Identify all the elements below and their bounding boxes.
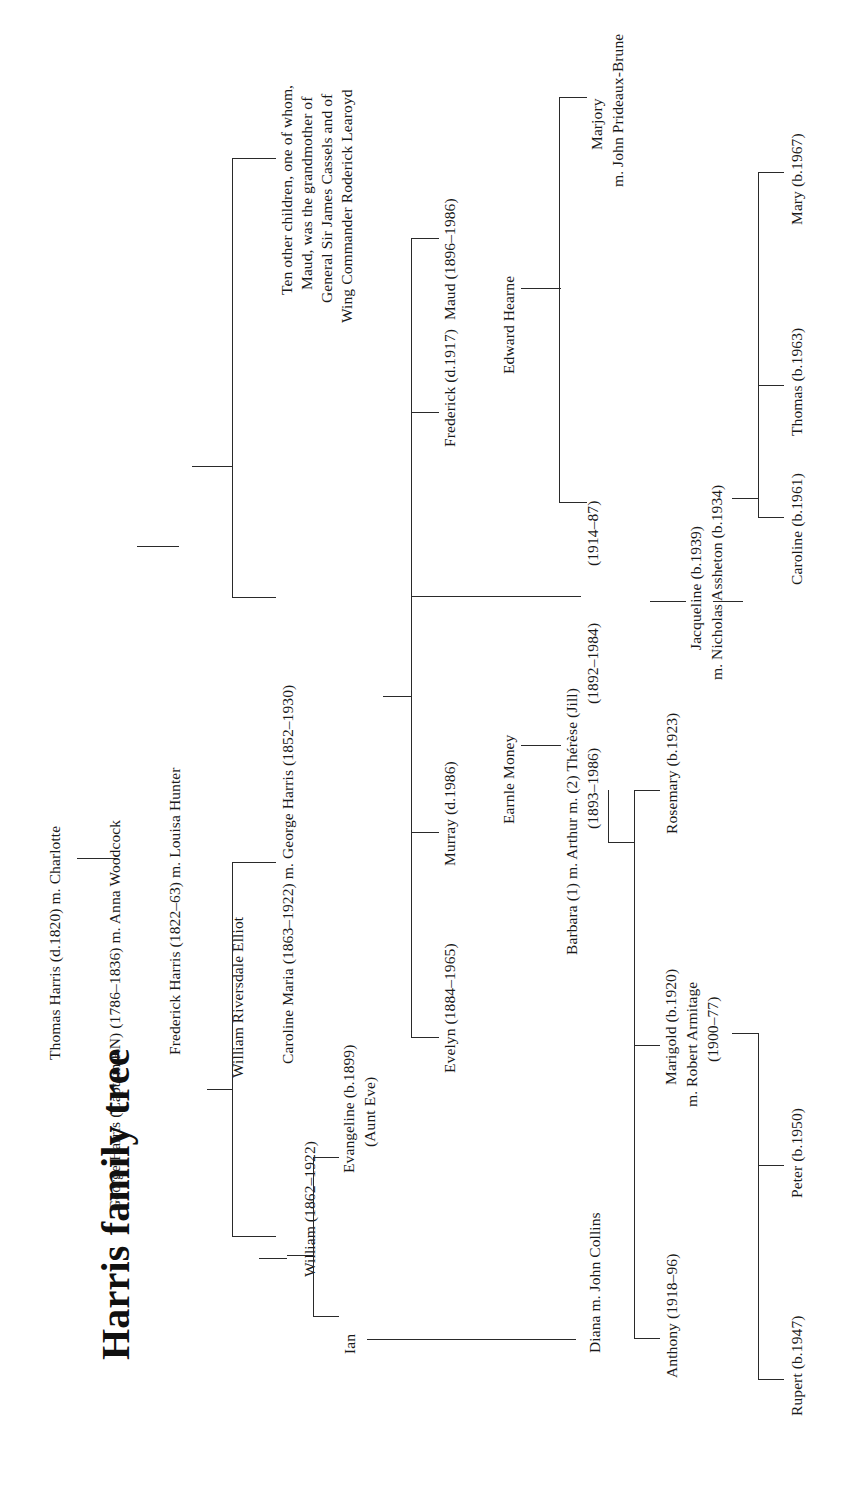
person-evelyn: Evelyn (1884–1965) xyxy=(440,943,460,1073)
children-bracket-william-arm-ian xyxy=(313,1316,339,1317)
person-caroline-1961: Caroline (b.1961) xyxy=(787,473,807,585)
children-bracket-arm-maud xyxy=(411,238,439,239)
children-bracket-arthur-arm-rosemary xyxy=(634,790,660,791)
children-bracket-assheton-arm-thomas xyxy=(758,385,784,386)
marriage-tick-nicholas-assheton xyxy=(713,601,743,602)
children-bracket-hearne-arm-marjory xyxy=(559,97,587,98)
descent-tick-jacqueline xyxy=(650,601,686,602)
person-marigold-line1: Marigold (b.1920) xyxy=(662,969,681,1085)
person-thomas-harris: Thomas Harris (d.1820) m. Charlotte xyxy=(45,826,65,1060)
children-bracket-armitage-arm-peter xyxy=(758,1165,784,1166)
marriage-tick-earnle-money xyxy=(521,745,561,746)
person-mary-1967: Mary (b.1967) xyxy=(787,133,807,225)
marriage-line-ian-diana xyxy=(367,1339,576,1340)
connector-into-arthur-children-riser xyxy=(608,790,609,843)
person-barbara-arthur-therese: Barbara (1) m. Arthur m. (2) Thérèse (Ji… xyxy=(562,688,582,955)
children-bracket-arthur-arm-marigold xyxy=(634,1045,660,1046)
note-ten-other-children-line2: Maud, was the grandmother of xyxy=(298,97,317,291)
dates-therese: (1914–87) xyxy=(583,501,603,566)
person-frederick-harris-1822: Frederick Harris (1822–63) m. Louisa Hun… xyxy=(165,767,185,1055)
person-peter: Peter (b.1950) xyxy=(787,1108,807,1198)
person-caroline-maria: Caroline Maria (1863–1922) m. George Har… xyxy=(278,685,298,1064)
connector-into-gen4-bracket xyxy=(192,466,232,467)
dates-arthur: (1892–1984) xyxy=(583,623,603,704)
sibling-bracket-william-caroline-arm-upper xyxy=(232,862,276,863)
person-rosemary: Rosemary (b.1923) xyxy=(662,713,682,834)
person-marigold-line3: (1900–77) xyxy=(704,997,723,1062)
connector-into-arthur-children xyxy=(608,842,634,843)
person-anthony: Anthony (1918–96) xyxy=(662,1254,682,1378)
children-bracket-arthur-arm-anthony xyxy=(634,1338,660,1339)
sibling-bracket-gen4-arm-upper xyxy=(232,158,276,159)
person-william-1862: William (1862–1922) xyxy=(300,1141,320,1277)
person-edward-hearne: Edward Hearne xyxy=(499,276,519,374)
person-marjory-line1: Marjory xyxy=(588,99,607,151)
person-marigold-line2: m. Robert Armitage xyxy=(683,982,702,1107)
children-bracket-assheton-arm-caroline xyxy=(758,517,784,518)
children-bracket-arm-murray xyxy=(411,832,439,833)
sibling-bracket-william-caroline-arm-lower xyxy=(232,1236,276,1237)
marriage-tick-william-riversdale-elliot xyxy=(207,1089,233,1090)
sibling-bracket-william-caroline-spine xyxy=(232,862,233,1237)
children-bracket-arthur-spine xyxy=(634,790,635,1339)
connector-into-armitage-children xyxy=(732,1033,758,1034)
marriage-tick-edward-hearne xyxy=(521,288,561,289)
person-evangeline-line1: Evangeline (b.1899) xyxy=(340,1045,359,1173)
children-bracket-armitage-arm-rupert xyxy=(758,1379,784,1380)
connector-into-armitage-children-riser xyxy=(758,1033,759,1166)
children-bracket-arm-frederick xyxy=(411,412,439,413)
descent-line-to-barbara-arthur xyxy=(411,596,581,597)
children-bracket-hearne-arm-therese xyxy=(559,502,587,503)
children-bracket-armitage-spine xyxy=(758,1165,759,1380)
person-george-harris-captain: George Harris (Captain RN) (1786–1836) m… xyxy=(105,820,125,1211)
note-ten-other-children-line3: General Sir James Cassels and of xyxy=(318,94,337,303)
person-william-riversdale-elliot: William Riversdale Elliot xyxy=(228,917,248,1078)
person-diana-collins: Diana m. John Collins xyxy=(585,1212,605,1353)
person-murray: Murray (d.1986) xyxy=(440,761,460,866)
marriage-tick-william-1862 xyxy=(259,1258,287,1259)
connector-george-to-frederick xyxy=(137,546,179,547)
children-bracket-assheton-arm-mary xyxy=(758,172,784,173)
sibling-bracket-gen4-spine xyxy=(232,158,233,598)
family-tree-diagram: Harris family tree Thomas Harris (d.1820… xyxy=(0,0,854,1497)
person-ian: Ian xyxy=(340,1334,360,1354)
person-marjory-line2: m. John Prideaux-Brune xyxy=(609,34,628,187)
children-bracket-william-arm-evangeline xyxy=(313,1157,339,1158)
note-ten-other-children-line4: Wing Commander Roderick Learoyd xyxy=(338,89,357,323)
person-jacqueline-line2: m. Nicholas Assheton (b.1934) xyxy=(708,485,727,680)
children-bracket-assheton-spine xyxy=(758,172,759,518)
person-thomas-1963: Thomas (b.1963) xyxy=(787,328,807,436)
person-frederick-d1917: Frederick (d.1917) xyxy=(440,329,460,447)
children-bracket-william-spine xyxy=(313,1157,314,1317)
dates-barbara: (1893–1986) xyxy=(583,748,603,829)
connector-into-assheton-children xyxy=(732,498,758,499)
person-earnle-money: Earnle Money xyxy=(499,735,519,824)
connector-into-caroline-children xyxy=(383,696,411,697)
children-bracket-caroline-spine xyxy=(411,238,412,1038)
sibling-bracket-gen4-arm-lower xyxy=(232,597,276,598)
person-jacqueline-line1: Jacqueline (b.1939) xyxy=(687,526,706,650)
note-ten-other-children-line1: Ten other children, one of whom, xyxy=(278,85,297,295)
children-bracket-arm-evelyn xyxy=(411,1037,439,1038)
connector-into-william-children xyxy=(287,1255,313,1256)
children-bracket-hearne-spine xyxy=(559,97,560,503)
person-rupert: Rupert (b.1947) xyxy=(787,1315,807,1416)
person-maud: Maud (1896–1986) xyxy=(440,198,460,320)
person-evangeline-line2: (Aunt Eve) xyxy=(361,1077,380,1147)
